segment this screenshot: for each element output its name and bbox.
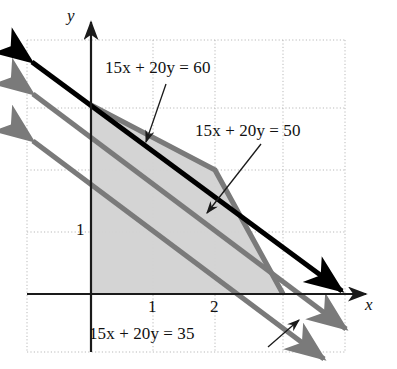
leader-arrow-eq60 — [146, 84, 166, 142]
label-equation-35: 15x + 20y = 35 — [89, 324, 195, 344]
y-tick-1: 1 — [76, 220, 85, 240]
graph-svg — [0, 0, 397, 369]
figure-canvas: 15x + 20y = 60 15x + 20y = 50 15x + 20y … — [0, 0, 397, 369]
x-axis-label: x — [365, 295, 373, 315]
label-equation-50: 15x + 20y = 50 — [195, 121, 301, 141]
y-axis-label: y — [67, 6, 75, 26]
x-tick-2: 2 — [210, 297, 219, 317]
label-equation-60: 15x + 20y = 60 — [105, 58, 211, 78]
x-tick-1: 1 — [148, 297, 157, 317]
